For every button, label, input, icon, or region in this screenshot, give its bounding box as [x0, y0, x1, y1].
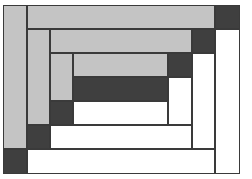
ring3-left-strip [50, 53, 73, 101]
ring2-bottom-strip [50, 125, 192, 149]
ring2-left-strip [27, 29, 50, 125]
ring3-top-right-corner [168, 53, 192, 77]
ring2-top-strip [50, 29, 192, 53]
outer-right-strip [215, 29, 240, 174]
ring3-bottom-strip [73, 101, 168, 125]
log-cabin-diagram [0, 0, 252, 179]
ring3-bottom-left-corner [50, 101, 73, 125]
ring3-right-strip [168, 77, 192, 125]
ring3-top-strip [73, 53, 168, 77]
outer-left-strip [3, 5, 27, 149]
ring2-top-right-corner [192, 29, 215, 53]
outer-bottom-strip [27, 149, 215, 174]
ring2-right-strip [192, 53, 215, 149]
center-block [73, 77, 168, 101]
outer-bottom-left-corner [3, 149, 27, 174]
ring2-bottom-left-corner [27, 125, 50, 149]
outer-top-right-corner [215, 5, 240, 29]
outer-top-strip [27, 5, 215, 29]
